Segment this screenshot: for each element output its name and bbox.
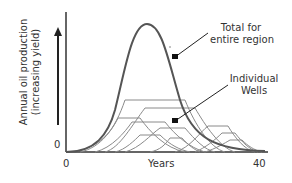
wells-annotation: Individual Wells xyxy=(228,73,280,97)
wells-leader-line xyxy=(175,85,228,121)
wells-annotation-line2: Wells xyxy=(228,85,280,97)
wells-marker xyxy=(172,118,178,123)
y-zero-label: 0 xyxy=(54,139,60,151)
y-axis-label-line1: Annual oil production xyxy=(18,12,30,132)
total-leader-line xyxy=(175,33,208,57)
total-annotation-line1: Total for xyxy=(210,22,272,34)
well-curves xyxy=(70,100,262,152)
x-zero-label: 0 xyxy=(63,158,69,170)
y-axis-label: Annual oil production (increasing yield) xyxy=(18,12,42,132)
up-arrow-icon xyxy=(54,27,62,125)
y-axis-label-line2: (increasing yield) xyxy=(30,12,42,132)
x-axis-label: Years xyxy=(148,158,174,170)
total-marker xyxy=(172,54,178,59)
dot xyxy=(169,46,171,48)
total-annotation-line2: entire region xyxy=(210,34,272,46)
x-end-label: 40 xyxy=(253,158,266,170)
wells-annotation-line1: Individual xyxy=(228,73,280,85)
total-annotation: Total for entire region xyxy=(210,22,272,46)
